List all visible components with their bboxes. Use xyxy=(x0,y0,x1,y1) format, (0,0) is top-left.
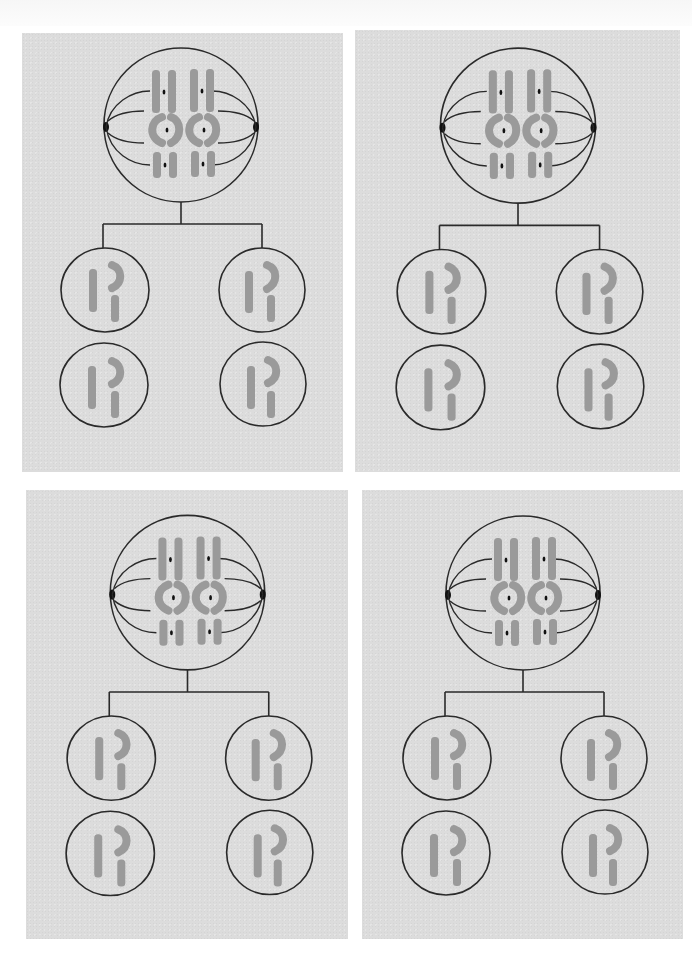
meiosis-diagram xyxy=(355,30,680,472)
meiosis-diagram xyxy=(26,490,348,939)
page-header-bleedthrough xyxy=(0,0,692,26)
meiosis-diagram xyxy=(362,490,683,939)
meiosis-panel-bottom-left xyxy=(26,490,348,939)
meiosis-panel-bottom-right xyxy=(362,490,683,939)
meiosis-panel-top-left xyxy=(22,33,343,472)
meiosis-panel-top-right xyxy=(355,30,680,472)
meiosis-diagram xyxy=(22,33,343,472)
